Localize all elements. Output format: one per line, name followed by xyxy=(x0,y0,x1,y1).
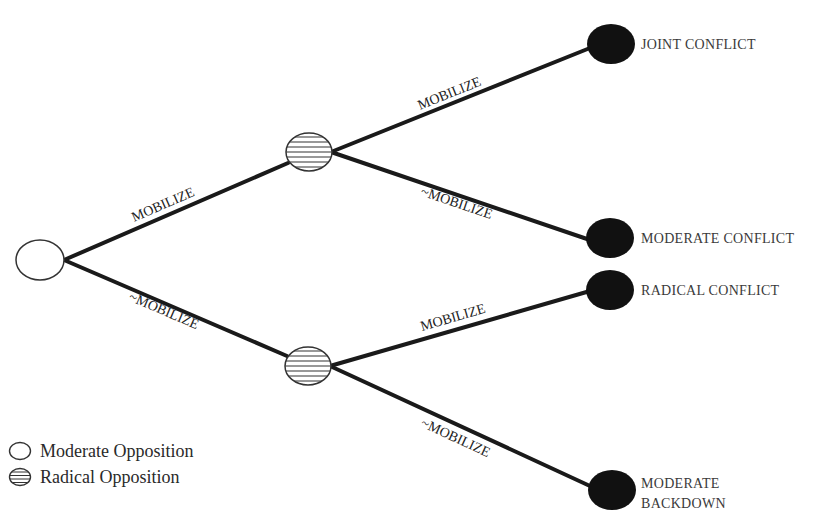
edge-upper-joint-conflict xyxy=(331,48,590,152)
outcome-label-line2: BACKDOWN xyxy=(641,494,726,514)
legend-label-moderate: Moderate Opposition xyxy=(40,441,193,462)
open-circle-icon xyxy=(8,441,32,461)
outcome-label-moderate-conflict: MODERATE CONFLICT xyxy=(641,229,794,249)
legend-item-radical-opposition: Radical Opposition xyxy=(8,464,193,490)
legend: Moderate Opposition Radical Opposition xyxy=(8,438,193,490)
node-radical-opposition-lower xyxy=(280,347,340,385)
outcome-label-joint-conflict: JOINT CONFLICT xyxy=(641,35,756,55)
terminal-node-joint-conflict xyxy=(587,24,635,64)
terminal-node-radical-conflict xyxy=(586,270,634,310)
edge-lower-moderate-backdown xyxy=(330,366,590,486)
legend-item-moderate-opposition: Moderate Opposition xyxy=(8,438,193,464)
root-node-moderate-opposition xyxy=(16,240,64,280)
outcome-label-line1: MODERATE xyxy=(641,474,726,494)
terminal-node-moderate-conflict xyxy=(586,218,634,258)
node-radical-opposition-upper xyxy=(280,133,340,171)
hatched-circle-icon xyxy=(8,467,32,487)
edge-root-upper xyxy=(64,163,288,260)
edge-lower-radical-conflict xyxy=(330,291,590,366)
terminal-node-moderate-backdown xyxy=(588,470,636,510)
outcome-label-moderate-backdown: MODERATE BACKDOWN xyxy=(641,474,726,514)
legend-label-radical: Radical Opposition xyxy=(40,467,179,488)
edge-label-root-lower: ~MOBILIZE xyxy=(127,289,201,332)
outcome-label-radical-conflict: RADICAL CONFLICT xyxy=(641,281,779,301)
